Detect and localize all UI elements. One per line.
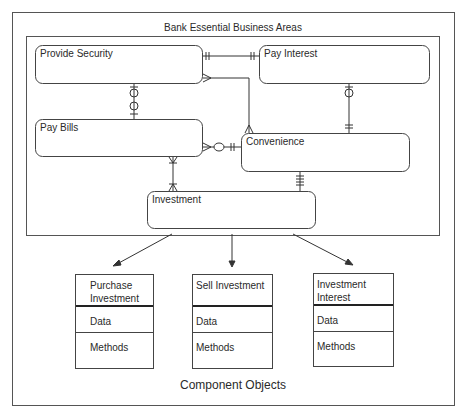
- component-data: Data: [314, 306, 393, 332]
- component-methods: Methods: [76, 333, 153, 367]
- component-data: Data: [193, 307, 272, 333]
- component-title-line1: Purchase: [90, 279, 153, 292]
- component-methods: Methods: [314, 332, 393, 366]
- component-title-line1: Sell Investment: [196, 279, 272, 292]
- diagram-caption: Component Objects: [12, 378, 454, 392]
- component-investment-interest: Investment Interest Data Methods: [313, 273, 394, 367]
- component-methods: Methods: [193, 333, 272, 367]
- component-sell-investment: Sell Investment Data Methods: [192, 274, 273, 369]
- entity-convenience: Convenience: [246, 135, 304, 148]
- entity-provide-security: Provide Security: [40, 47, 113, 60]
- entity-pay-interest: Pay Interest: [264, 47, 317, 60]
- component-title: Purchase Investment: [76, 275, 153, 307]
- component-data: Data: [76, 307, 153, 333]
- entity-investment: Investment: [152, 193, 201, 206]
- entity-pay-bills: Pay Bills: [40, 121, 78, 134]
- component-title: Sell Investment: [193, 275, 272, 307]
- component-title-line2: Interest: [317, 291, 393, 304]
- component-title: Investment Interest: [314, 274, 393, 306]
- component-title-line2: Investment: [90, 292, 153, 305]
- diagram-title: Bank Essential Business Areas: [26, 22, 440, 33]
- component-purchase-investment: Purchase Investment Data Methods: [75, 274, 154, 369]
- component-title-line1: Investment: [317, 278, 393, 291]
